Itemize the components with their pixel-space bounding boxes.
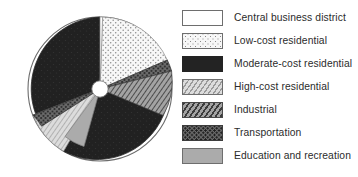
legend-label: High-cost residential bbox=[234, 81, 329, 92]
legend-label: Industrial bbox=[234, 104, 277, 115]
legend-item-industrial[interactable]: Industrial bbox=[182, 98, 358, 121]
legend-item-low-cost-residential[interactable]: Low-cost residential bbox=[182, 29, 358, 52]
pie-chart-plot-area bbox=[22, 9, 178, 169]
legend-label: Education and recreation bbox=[234, 150, 351, 161]
legend-label: Moderate-cost residential bbox=[234, 58, 352, 69]
legend-label: Low-cost residential bbox=[234, 35, 327, 46]
legend-item-moderate-cost-residential[interactable]: Moderate-cost residential bbox=[182, 52, 358, 75]
legend: Central business district Low-cost resid… bbox=[182, 6, 358, 172]
legend-item-central-business-district[interactable]: Central business district bbox=[182, 6, 358, 29]
legend-label: Transportation bbox=[234, 127, 301, 138]
legend-item-education-and-recreation[interactable]: Education and recreation bbox=[182, 144, 358, 167]
swatch-solid-dark-icon bbox=[182, 56, 223, 72]
swatch-coarse-dots-dark-icon bbox=[182, 125, 223, 141]
legend-item-transportation[interactable]: Transportation bbox=[182, 121, 358, 144]
swatch-fine-dots-light-icon bbox=[182, 33, 223, 49]
pie-center-hub bbox=[92, 81, 108, 97]
pie-chart-figure: Central business district Low-cost resid… bbox=[0, 0, 358, 177]
legend-label: Central business district bbox=[234, 12, 346, 23]
legend-item-high-cost-residential[interactable]: High-cost residential bbox=[182, 75, 358, 98]
swatch-hatch-dark-icon bbox=[182, 102, 223, 118]
swatch-hatch-light-icon bbox=[182, 79, 223, 95]
swatch-solid-mid-gray-icon bbox=[182, 148, 223, 164]
swatch-solid-white-icon bbox=[182, 10, 223, 26]
pie-chart-svg bbox=[22, 9, 178, 169]
